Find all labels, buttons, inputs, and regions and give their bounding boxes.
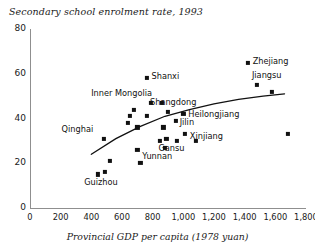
- point-label-jiangsu: Jiangsu: [252, 70, 282, 80]
- y-tick-label: 80: [2, 23, 26, 33]
- data-point: [108, 159, 112, 163]
- data-point: [270, 90, 274, 94]
- x-tick-label: 1,000: [171, 212, 195, 222]
- data-point: [126, 121, 130, 125]
- x-tick-label: 1,200: [202, 212, 226, 222]
- data-point: [135, 125, 139, 129]
- x-axis-line: [30, 208, 306, 209]
- y-tick-label: 60: [2, 68, 26, 78]
- y-tick-label: 0: [2, 202, 26, 212]
- data-point-shanxi: [144, 76, 148, 80]
- point-label-gansu: Gansu: [158, 143, 184, 153]
- point-label-qinghai: Qinghai: [62, 124, 94, 134]
- x-axis-title: Provincial GDP per capita (1978 yuan): [0, 231, 315, 242]
- point-label-guizhou: Guizhou: [84, 177, 118, 187]
- point-label-inner-mongolia: Inner Mongolia: [91, 88, 152, 98]
- data-point-gansu: [164, 137, 168, 141]
- data-point: [286, 132, 290, 136]
- data-point-xinjiang: [183, 132, 187, 136]
- chart-title: Secondary school enrolment rate, 1993: [9, 6, 203, 17]
- data-point-guizhou: [96, 172, 100, 176]
- x-tick-label: 1,800: [294, 212, 315, 222]
- y-tick-label: 40: [2, 113, 26, 123]
- x-tick-label: 800: [145, 212, 161, 222]
- scatter-chart: Secondary school enrolment rate, 1993 02…: [0, 0, 315, 250]
- x-tick-label: 200: [53, 212, 69, 222]
- data-point-zhejiang: [246, 60, 250, 64]
- data-point-shangdong: [166, 110, 170, 114]
- data-point-jilin: [174, 119, 178, 123]
- data-point: [138, 161, 142, 165]
- data-point-qinghai: [102, 137, 106, 141]
- y-axis-line: [30, 29, 31, 209]
- point-label-shanxi: Shanxi: [152, 71, 180, 81]
- point-label-zhejiang: Zhejiang: [253, 56, 289, 66]
- point-label-shangdong: Shangdong: [150, 97, 196, 107]
- data-point: [132, 107, 136, 111]
- data-point-jiangsu: [255, 83, 259, 87]
- data-point-heilongjiang: [181, 112, 185, 116]
- x-tick-label: 1,400: [233, 212, 257, 222]
- point-label-jilin: Jilin: [180, 117, 194, 127]
- data-point: [128, 114, 132, 118]
- y-tick-label: 20: [2, 157, 26, 167]
- point-label-heilongjiang: Heilongjiang: [188, 109, 239, 119]
- x-tick-label: 1,600: [263, 212, 287, 222]
- data-point: [161, 125, 165, 129]
- point-label-xinjiang: Xinjiang: [190, 131, 223, 141]
- data-point-yunnan: [135, 148, 139, 152]
- data-point: [103, 170, 107, 174]
- x-tick-label: 0: [27, 212, 32, 222]
- x-tick-label: 400: [83, 212, 99, 222]
- x-tick-label: 600: [114, 212, 130, 222]
- data-point: [144, 114, 148, 118]
